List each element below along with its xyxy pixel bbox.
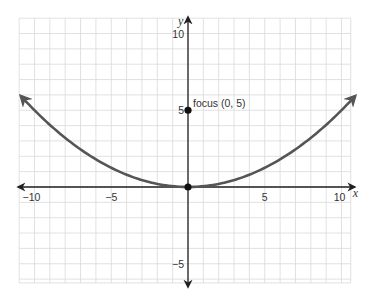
- focus-label: focus (0, 5): [193, 97, 246, 109]
- y-tick-label: −5: [172, 258, 184, 270]
- y-axis-label: y: [177, 14, 184, 28]
- x-tick-label: −10: [23, 191, 41, 203]
- vertex-point: [184, 183, 191, 190]
- y-tick-label: 10: [172, 28, 184, 40]
- x-tick-label: −5: [105, 191, 117, 203]
- grid: [19, 18, 351, 283]
- axes: [18, 17, 355, 287]
- x-tick-label: 10: [334, 191, 346, 203]
- labels: focus (0, 5)−10−5510105−5xy: [23, 14, 359, 270]
- focus-point: [184, 107, 191, 114]
- y-tick-label: 5: [178, 104, 184, 116]
- x-tick-label: 5: [262, 191, 268, 203]
- x-axis-label: x: [352, 186, 359, 200]
- parabola-graph: focus (0, 5)−10−5510105−5xy: [0, 0, 368, 297]
